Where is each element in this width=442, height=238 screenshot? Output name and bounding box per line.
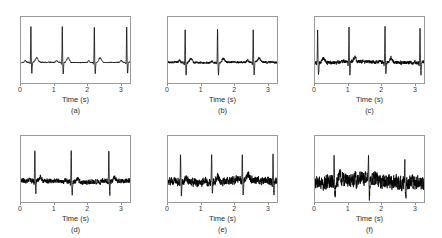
ecg-trace-b [168,17,277,83]
tick-label: 2 [232,204,236,213]
plot-area-a [20,16,131,84]
tick-label: 1 [199,204,203,213]
tick-label: 0 [18,85,22,94]
plot-area-e [167,135,278,203]
tick-label: 1 [346,204,350,213]
signal-line [315,155,424,200]
x-axis-label: Time (s) [314,95,425,105]
tick-label: 2 [85,85,89,94]
tick-label: 2 [85,204,89,213]
tick-label: 3 [413,204,417,213]
ecg-panel-f: 0123Time (s)(f) [294,119,441,238]
subplot-caption: (c) [314,106,425,116]
plot-area-c [314,16,425,84]
subplot-caption: (b) [167,106,278,116]
signal-line [21,27,130,74]
tick-label: 0 [165,204,169,213]
subplot-caption: (d) [20,225,131,235]
tick-label: 3 [266,85,270,94]
x-axis-label: Time (s) [167,95,278,105]
ecg-trace-e [168,136,277,202]
tick-label: 0 [312,204,316,213]
signal-line [315,26,424,75]
ecg-trace-d [21,136,130,202]
plot-area-d [20,135,131,203]
plot-area-f [314,135,425,203]
subplot-caption: (f) [314,225,425,235]
ecg-trace-f [315,136,424,202]
signal-line [21,151,130,196]
ecg-figure: 0123Time (s)(a)0123Time (s)(b)0123Time (… [0,0,442,238]
ecg-panel-a: 0123Time (s)(a) [0,0,147,119]
tick-label: 2 [379,204,383,213]
tick-label: 3 [266,204,270,213]
tick-label: 2 [379,85,383,94]
tick-label: 3 [413,85,417,94]
tick-label: 1 [199,85,203,94]
tick-label: 1 [52,204,56,213]
ecg-trace-a [21,17,130,83]
x-axis-label: Time (s) [20,95,131,105]
ecg-panel-c: 0123Time (s)(c) [294,0,441,119]
ecg-trace-c [315,17,424,83]
x-axis-label: Time (s) [20,214,131,224]
tick-label: 1 [52,85,56,94]
plot-area-b [167,16,278,84]
ecg-panel-b: 0123Time (s)(b) [147,0,294,119]
x-axis-label: Time (s) [167,214,278,224]
tick-label: 1 [346,85,350,94]
subplot-caption: (a) [20,106,131,116]
tick-label: 0 [18,204,22,213]
tick-label: 3 [119,85,123,94]
ecg-panel-d: 0123Time (s)(d) [0,119,147,238]
tick-label: 3 [119,204,123,213]
x-axis-label: Time (s) [314,214,425,224]
signal-line [168,29,277,75]
tick-label: 2 [232,85,236,94]
tick-label: 0 [165,85,169,94]
ecg-panel-e: 0123Time (s)(e) [147,119,294,238]
signal-line [168,154,277,196]
tick-label: 0 [312,85,316,94]
subplot-caption: (e) [167,225,278,235]
